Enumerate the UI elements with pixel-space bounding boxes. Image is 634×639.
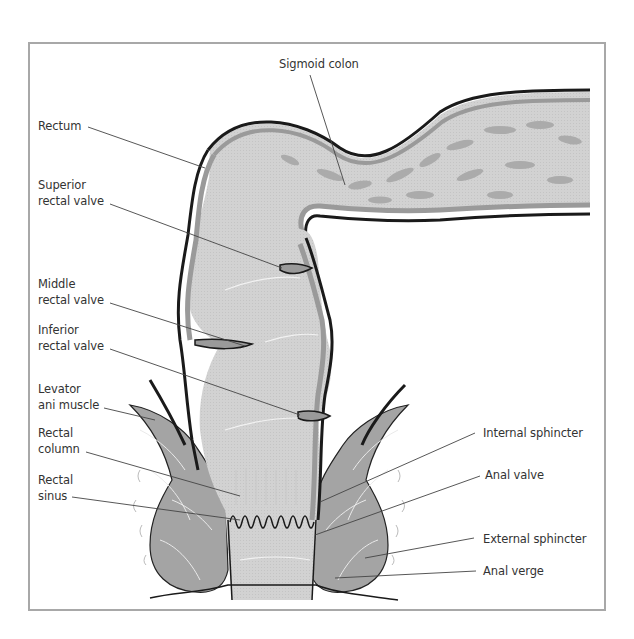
- label-anal-valve: Anal valve: [485, 467, 544, 483]
- label-anal-verge: Anal verge: [483, 563, 544, 579]
- label-superior-rectal-valve: Superior rectal valve: [38, 177, 104, 209]
- inferior-rectal-valve: [298, 411, 330, 421]
- label-rectum: Rectum: [38, 118, 81, 134]
- label-external-sphincter: External sphincter: [483, 531, 586, 547]
- label-middle-rectal-valve: Middle rectal valve: [38, 276, 104, 308]
- label-internal-sphincter: Internal sphincter: [483, 425, 583, 441]
- label-rectal-sinus: Rectal sinus: [38, 472, 73, 504]
- label-sigmoid-colon: Sigmoid colon: [279, 56, 359, 72]
- label-inferior-rectal-valve: Inferior rectal valve: [38, 322, 104, 354]
- label-levator-ani-muscle: Levator ani muscle: [38, 381, 99, 413]
- label-rectal-column: Rectal column: [38, 425, 80, 457]
